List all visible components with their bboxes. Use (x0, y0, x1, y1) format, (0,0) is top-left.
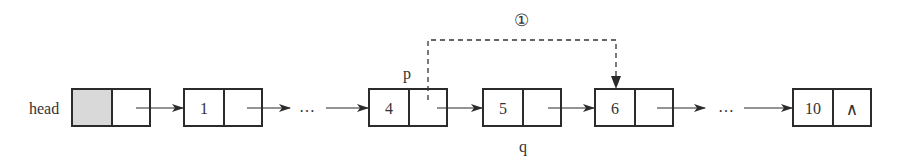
node-10: 10 ∧ (793, 89, 871, 126)
node-4: 4 (369, 89, 447, 126)
node-6-data: 6 (611, 100, 619, 117)
node-4-data: 4 (385, 100, 393, 117)
ellipsis-1: … (299, 98, 315, 115)
ellipsis-2: … (718, 98, 734, 115)
head-data-field (73, 90, 112, 125)
node-10-data: 10 (805, 100, 821, 117)
pointer-q-label: q (519, 138, 527, 156)
head-label: head (29, 100, 59, 117)
node-5-data: 5 (499, 100, 507, 117)
linked-list-diagram: head 1 … 4 p 5 q 6 … (0, 0, 901, 160)
pointer-p-label: p (403, 65, 411, 83)
null-symbol: ∧ (846, 100, 858, 119)
dashed-arrowhead-icon (611, 76, 621, 89)
step-1-label: ① (514, 11, 529, 30)
node-1-data: 1 (200, 100, 208, 117)
